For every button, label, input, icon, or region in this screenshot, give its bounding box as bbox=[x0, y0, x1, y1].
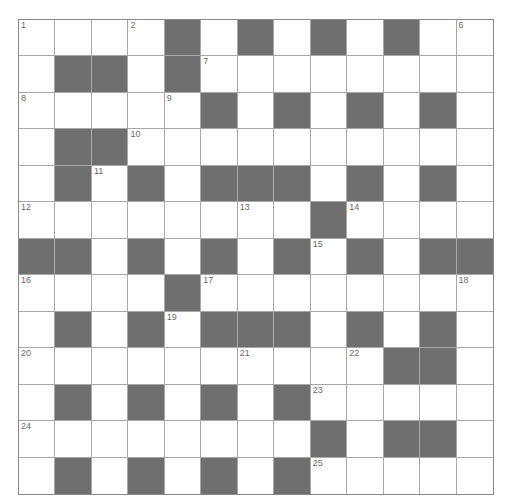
answer-cell[interactable] bbox=[384, 129, 420, 165]
answer-cell[interactable] bbox=[92, 421, 128, 457]
answer-cell[interactable]: 25 bbox=[311, 458, 347, 494]
answer-cell[interactable]: 15 bbox=[311, 239, 347, 275]
answer-cell[interactable] bbox=[128, 93, 164, 129]
answer-cell[interactable] bbox=[92, 312, 128, 348]
answer-cell[interactable] bbox=[274, 275, 310, 311]
answer-cell[interactable]: 24 bbox=[19, 421, 55, 457]
answer-cell[interactable] bbox=[238, 421, 274, 457]
answer-cell[interactable]: 18 bbox=[457, 275, 493, 311]
answer-cell[interactable] bbox=[457, 129, 493, 165]
answer-cell[interactable] bbox=[238, 129, 274, 165]
answer-cell[interactable] bbox=[457, 202, 493, 238]
answer-cell[interactable] bbox=[420, 202, 456, 238]
answer-cell[interactable] bbox=[201, 421, 237, 457]
answer-cell[interactable] bbox=[92, 20, 128, 56]
answer-cell[interactable]: 21 bbox=[238, 348, 274, 384]
answer-cell[interactable] bbox=[274, 20, 310, 56]
answer-cell[interactable] bbox=[457, 421, 493, 457]
answer-cell[interactable] bbox=[238, 93, 274, 129]
answer-cell[interactable] bbox=[238, 56, 274, 92]
answer-cell[interactable] bbox=[19, 129, 55, 165]
answer-cell[interactable]: 20 bbox=[19, 348, 55, 384]
answer-cell[interactable] bbox=[384, 458, 420, 494]
answer-cell[interactable] bbox=[384, 56, 420, 92]
answer-cell[interactable] bbox=[55, 20, 91, 56]
answer-cell[interactable] bbox=[420, 458, 456, 494]
answer-cell[interactable] bbox=[457, 166, 493, 202]
answer-cell[interactable]: 7 bbox=[201, 56, 237, 92]
answer-cell[interactable] bbox=[128, 348, 164, 384]
answer-cell[interactable] bbox=[238, 239, 274, 275]
answer-cell[interactable] bbox=[128, 56, 164, 92]
answer-cell[interactable] bbox=[457, 458, 493, 494]
answer-cell[interactable] bbox=[311, 129, 347, 165]
answer-cell[interactable] bbox=[457, 312, 493, 348]
answer-cell[interactable] bbox=[92, 93, 128, 129]
answer-cell[interactable]: 6 bbox=[457, 20, 493, 56]
answer-cell[interactable] bbox=[55, 275, 91, 311]
answer-cell[interactable] bbox=[311, 56, 347, 92]
answer-cell[interactable] bbox=[384, 202, 420, 238]
answer-cell[interactable] bbox=[274, 129, 310, 165]
answer-cell[interactable] bbox=[55, 348, 91, 384]
answer-cell[interactable] bbox=[128, 421, 164, 457]
answer-cell[interactable] bbox=[420, 20, 456, 56]
answer-cell[interactable] bbox=[19, 385, 55, 421]
answer-cell[interactable] bbox=[201, 20, 237, 56]
answer-cell[interactable]: 8 bbox=[19, 93, 55, 129]
answer-cell[interactable] bbox=[347, 421, 383, 457]
answer-cell[interactable]: 1 bbox=[19, 20, 55, 56]
answer-cell[interactable] bbox=[347, 129, 383, 165]
answer-cell[interactable] bbox=[92, 275, 128, 311]
answer-cell[interactable] bbox=[55, 202, 91, 238]
answer-cell[interactable] bbox=[384, 166, 420, 202]
answer-cell[interactable] bbox=[347, 56, 383, 92]
answer-cell[interactable] bbox=[201, 202, 237, 238]
answer-cell[interactable] bbox=[201, 348, 237, 384]
answer-cell[interactable] bbox=[347, 20, 383, 56]
answer-cell[interactable] bbox=[165, 239, 201, 275]
answer-cell[interactable] bbox=[420, 385, 456, 421]
answer-cell[interactable]: 19 bbox=[165, 312, 201, 348]
answer-cell[interactable] bbox=[457, 93, 493, 129]
answer-cell[interactable] bbox=[19, 458, 55, 494]
answer-cell[interactable]: 14 bbox=[347, 202, 383, 238]
answer-cell[interactable] bbox=[420, 129, 456, 165]
answer-cell[interactable] bbox=[347, 275, 383, 311]
answer-cell[interactable] bbox=[384, 385, 420, 421]
answer-cell[interactable] bbox=[311, 93, 347, 129]
answer-cell[interactable]: 12 bbox=[19, 202, 55, 238]
answer-cell[interactable] bbox=[92, 458, 128, 494]
answer-cell[interactable] bbox=[92, 239, 128, 275]
answer-cell[interactable]: 17 bbox=[201, 275, 237, 311]
answer-cell[interactable] bbox=[55, 93, 91, 129]
answer-cell[interactable] bbox=[19, 312, 55, 348]
answer-cell[interactable] bbox=[384, 312, 420, 348]
answer-cell[interactable] bbox=[274, 56, 310, 92]
answer-cell[interactable]: 2 bbox=[128, 20, 164, 56]
answer-cell[interactable]: 22 bbox=[347, 348, 383, 384]
answer-cell[interactable] bbox=[165, 166, 201, 202]
answer-cell[interactable] bbox=[384, 93, 420, 129]
answer-cell[interactable] bbox=[128, 275, 164, 311]
answer-cell[interactable] bbox=[311, 312, 347, 348]
answer-cell[interactable]: 16 bbox=[19, 275, 55, 311]
answer-cell[interactable] bbox=[238, 385, 274, 421]
answer-cell[interactable] bbox=[238, 275, 274, 311]
answer-cell[interactable]: 11 bbox=[92, 166, 128, 202]
answer-cell[interactable] bbox=[457, 348, 493, 384]
answer-cell[interactable] bbox=[165, 421, 201, 457]
answer-cell[interactable] bbox=[165, 202, 201, 238]
answer-cell[interactable] bbox=[311, 275, 347, 311]
answer-cell[interactable] bbox=[420, 56, 456, 92]
answer-cell[interactable] bbox=[274, 348, 310, 384]
answer-cell[interactable] bbox=[165, 385, 201, 421]
answer-cell[interactable] bbox=[92, 202, 128, 238]
answer-cell[interactable]: 9 bbox=[165, 93, 201, 129]
answer-cell[interactable] bbox=[457, 385, 493, 421]
answer-cell[interactable] bbox=[19, 166, 55, 202]
answer-cell[interactable]: 10 bbox=[128, 129, 164, 165]
answer-cell[interactable] bbox=[420, 275, 456, 311]
answer-cell[interactable] bbox=[274, 202, 310, 238]
answer-cell[interactable] bbox=[55, 421, 91, 457]
